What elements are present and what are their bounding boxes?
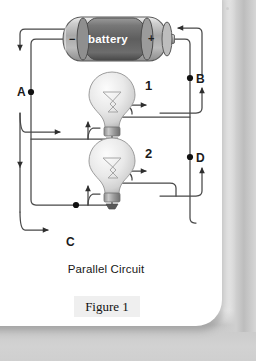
branch-label-2: 2	[145, 147, 152, 160]
node-dot-a	[28, 89, 34, 95]
wire-battery-neg-to-node-a	[31, 39, 66, 92]
wire-bulb2-to-right-rail	[112, 183, 176, 205]
node-label-d: D	[196, 152, 205, 164]
bulb-1	[89, 72, 135, 143]
battery-positive-cap	[162, 22, 172, 56]
node-dot-d	[187, 154, 193, 160]
figure-screenshot: battery − + A B C D 1 2 Parallel Circuit…	[0, 0, 256, 361]
figure-number-label: Figure 1	[85, 299, 129, 315]
wire-branch2-base-hook	[88, 194, 100, 205]
node-label-c: C	[66, 236, 75, 248]
wire-arrow-left-to-bulb1-branch	[20, 113, 60, 132]
battery-label: battery	[88, 33, 128, 45]
wire-node-a-to-node-c	[31, 92, 76, 205]
figure-title: Parallel Circuit	[0, 263, 212, 275]
wire-arrow-left-to-node-c	[20, 212, 48, 230]
node-label-b: B	[196, 73, 205, 85]
node-dot-b	[187, 75, 193, 81]
wire-bulb1-to-right-rail	[112, 117, 190, 139]
bulb-1-screw-base	[104, 127, 120, 136]
node-label-a: A	[17, 86, 26, 98]
bulb-2	[89, 138, 135, 209]
bulb-2-contact	[106, 204, 118, 209]
figure-number-box: Figure 1	[74, 296, 140, 317]
bulb-2-screw-base	[104, 193, 120, 202]
node-dot-c	[73, 202, 79, 208]
branch-label-1: 1	[145, 79, 152, 92]
wire-arrow-branch1-right-up	[160, 88, 202, 113]
wire-branch1-base-hook	[88, 128, 100, 139]
battery-negative-sign: −	[69, 33, 75, 45]
battery-positive-sign: +	[148, 32, 154, 44]
wire-arrow-branch2-right-up	[160, 168, 202, 196]
